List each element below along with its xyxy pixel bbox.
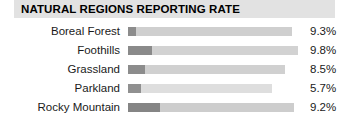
bar-dark-segment [128, 103, 160, 112]
bar-row-label: Foothills [0, 41, 120, 60]
bar-value-label: 9.2% [310, 98, 336, 117]
page-title: NATURAL REGIONS REPORTING RATE [21, 2, 240, 16]
bar-row-label: Boreal Forest [0, 22, 120, 41]
bar-light-segment [160, 103, 294, 112]
bar-value-label: 9.3% [310, 22, 336, 41]
bar [128, 84, 272, 93]
bar-row: Boreal Forest9.3% [0, 22, 360, 41]
bar-light-segment [152, 46, 298, 55]
bar-row-label: Grassland [0, 60, 120, 79]
bar-row: Foothills9.8% [0, 41, 360, 60]
bar-track [128, 65, 285, 74]
bar [128, 27, 292, 36]
bar-row-list: Boreal Forest9.3%Foothills9.8%Grassland8… [0, 22, 360, 117]
bar-dark-segment [128, 84, 141, 93]
bar-value-label: 5.7% [310, 79, 336, 98]
bar-value-label: 8.5% [310, 60, 336, 79]
bar [128, 65, 285, 74]
bar-light-segment [136, 27, 292, 36]
bar-row: Rocky Mountain9.2% [0, 98, 360, 117]
bar-light-segment [145, 65, 285, 74]
bar [128, 46, 298, 55]
bar-track [128, 46, 298, 55]
bar-dark-segment [128, 46, 152, 55]
bar-row-label: Rocky Mountain [0, 98, 120, 117]
bar-row-label: Parkland [0, 79, 120, 98]
bar [128, 103, 294, 112]
reporting-rate-chart: NATURAL REGIONS REPORTING RATE Boreal Fo… [0, 0, 360, 128]
bar-dark-segment [128, 27, 136, 36]
bar-value-label: 9.8% [310, 41, 336, 60]
bar-track [128, 27, 292, 36]
bar-track [128, 84, 272, 93]
bar-row: Parkland5.7% [0, 79, 360, 98]
bar-light-segment [141, 84, 272, 93]
bar-dark-segment [128, 65, 145, 74]
bar-row: Grassland8.5% [0, 60, 360, 79]
bar-track [128, 103, 294, 112]
